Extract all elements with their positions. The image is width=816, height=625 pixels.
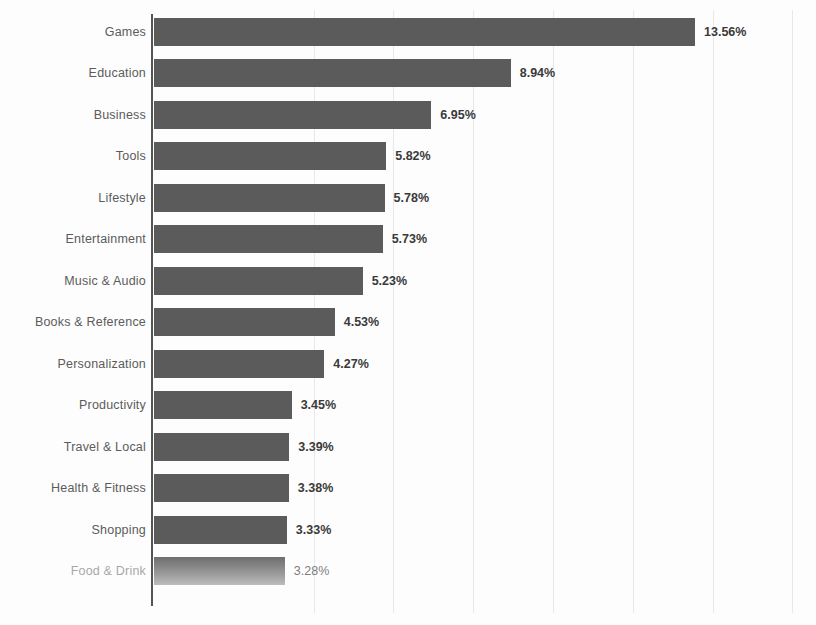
bar-rows: Games13.56%Education8.94%Business6.95%To… [0, 0, 816, 625]
bar [154, 18, 695, 46]
bar-row: Shopping3.33% [0, 509, 816, 551]
bar [154, 557, 285, 585]
bar [154, 225, 383, 253]
bar-row: Productivity3.45% [0, 385, 816, 427]
category-label: Personalization [0, 357, 146, 371]
bar-value-label: 5.23% [372, 274, 407, 288]
bar-value-label: 13.56% [704, 25, 746, 39]
bar-row: Travel & Local3.39% [0, 426, 816, 468]
category-label: Travel & Local [0, 440, 146, 454]
category-label: Food & Drink [0, 564, 146, 578]
bar-row: Tools5.82% [0, 136, 816, 178]
bar-row: Music & Audio5.23% [0, 260, 816, 302]
category-label: Entertainment [0, 232, 146, 246]
category-label: Games [0, 25, 146, 39]
bar-row: Business6.95% [0, 94, 816, 136]
category-label: Lifestyle [0, 191, 146, 205]
bar [154, 433, 289, 461]
bar-row: Games13.56% [0, 11, 816, 53]
category-label: Education [0, 66, 146, 80]
bar [154, 516, 287, 544]
bar-row: Entertainment5.73% [0, 219, 816, 261]
bar-row: Lifestyle5.78% [0, 177, 816, 219]
bar [154, 184, 385, 212]
category-label: Health & Fitness [0, 481, 146, 495]
bar [154, 59, 511, 87]
bar-value-label: 3.39% [298, 440, 333, 454]
bar-row: Education8.94% [0, 53, 816, 95]
bar [154, 391, 292, 419]
category-label: Business [0, 108, 146, 122]
bar [154, 474, 289, 502]
bar-value-label: 4.27% [333, 357, 368, 371]
bar [154, 350, 324, 378]
bar [154, 101, 431, 129]
category-label: Music & Audio [0, 274, 146, 288]
bar-row: Personalization4.27% [0, 343, 816, 385]
bar-value-label: 3.45% [301, 398, 336, 412]
bar [154, 308, 335, 336]
bar-value-label: 3.38% [298, 481, 333, 495]
bar-value-label: 3.33% [296, 523, 331, 537]
bar-row: Health & Fitness3.38% [0, 468, 816, 510]
bar [154, 267, 363, 295]
bar [154, 142, 386, 170]
category-label: Books & Reference [0, 315, 146, 329]
bar-chart: Games13.56%Education8.94%Business6.95%To… [0, 0, 816, 625]
bar-row: Books & Reference4.53% [0, 302, 816, 344]
bar-value-label: 5.78% [394, 191, 429, 205]
category-label: Productivity [0, 398, 146, 412]
bar-value-label: 5.73% [392, 232, 427, 246]
bar-value-label: 8.94% [520, 66, 555, 80]
category-label: Shopping [0, 523, 146, 537]
category-label: Tools [0, 149, 146, 163]
bar-row: Food & Drink3.28% [0, 551, 816, 593]
bar-value-label: 3.28% [294, 564, 329, 578]
bar-value-label: 4.53% [344, 315, 379, 329]
bar-value-label: 6.95% [440, 108, 475, 122]
bar-value-label: 5.82% [395, 149, 430, 163]
